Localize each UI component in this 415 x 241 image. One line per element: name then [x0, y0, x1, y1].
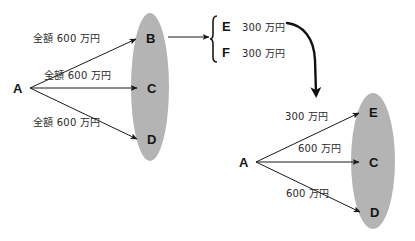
- edge-label-a2-d: 600 万円: [286, 188, 329, 199]
- node-a-right: A: [239, 155, 249, 170]
- node-e-split: E: [222, 19, 231, 34]
- amount-e-split: 300 万円: [242, 22, 285, 33]
- edge-label-a-c: 全額 600 万円: [44, 69, 111, 81]
- edge-label-a-b: 全額 600 万円: [33, 32, 100, 44]
- node-e-right: E: [369, 105, 378, 120]
- node-c: C: [147, 81, 157, 96]
- node-b: B: [146, 31, 155, 46]
- node-d: D: [147, 132, 156, 147]
- edge-label-a2-c: 600 万円: [298, 143, 341, 154]
- transition-curved-arrow: [287, 23, 316, 92]
- node-d-right: D: [370, 205, 379, 220]
- edge-label-a2-e: 300 万円: [285, 111, 328, 122]
- diagram-canvas: A B C D 全額 600 万円 全額 600 万円 全額 600 万円 E …: [0, 0, 415, 241]
- edge-a2-to-d: [256, 162, 360, 212]
- node-f-split: F: [222, 45, 230, 60]
- amount-f-split: 300 万円: [242, 48, 285, 59]
- edge-a-to-d: [30, 88, 137, 139]
- edge-label-a-d: 全額 600 万円: [33, 116, 100, 128]
- node-a-left: A: [13, 81, 23, 96]
- node-c-right: C: [369, 155, 379, 170]
- split-bracket: [210, 16, 217, 62]
